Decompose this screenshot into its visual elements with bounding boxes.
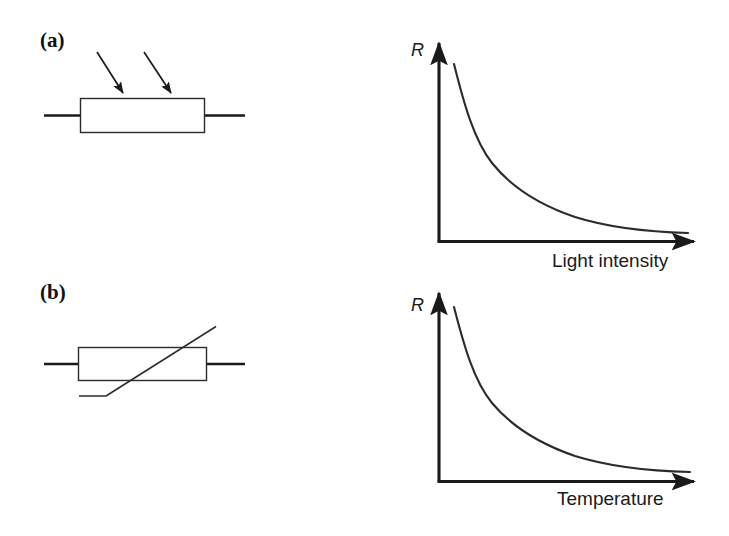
thermistor-symbol-group bbox=[44, 327, 245, 397]
panel-label-b: (b) bbox=[40, 282, 66, 303]
thermistor-graph-group bbox=[438, 293, 695, 482]
thermistor-graph-curve bbox=[454, 307, 690, 472]
y-axis-label-resistance-top: R bbox=[411, 41, 424, 59]
ldr-symbol-group bbox=[44, 52, 245, 133]
ldr-light-arrow-1 bbox=[97, 52, 123, 93]
figure-root: (a) (b) R Light intensity R Temperature bbox=[0, 0, 729, 536]
ldr-graph-curve bbox=[454, 64, 688, 233]
thermistor-diagonal-line bbox=[106, 327, 216, 397]
ldr-graph-group bbox=[438, 43, 695, 242]
thermistor-resistor-body bbox=[79, 348, 207, 381]
y-axis-label-resistance-bottom: R bbox=[411, 296, 424, 314]
x-axis-label-temperature: Temperature bbox=[557, 489, 664, 508]
panel-label-a: (a) bbox=[40, 30, 65, 51]
x-axis-label-light-intensity: Light intensity bbox=[552, 251, 668, 270]
ldr-light-arrow-2 bbox=[144, 52, 171, 93]
ldr-resistor-body bbox=[81, 99, 205, 133]
